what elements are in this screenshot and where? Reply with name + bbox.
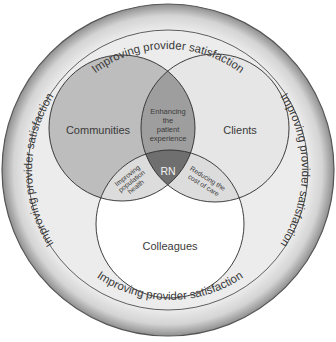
svg-text:patient: patient	[157, 125, 180, 134]
label-colleagues: Colleagues	[142, 240, 198, 252]
label-clients: Clients	[223, 124, 257, 136]
label-rn: RN	[160, 165, 175, 177]
svg-text:Enhancing: Enhancing	[150, 107, 185, 116]
svg-text:the: the	[163, 116, 173, 125]
svg-text:experience: experience	[150, 134, 187, 143]
venn-diagram: Improving provider satisfaction Improvin…	[0, 0, 336, 342]
label-communities: Communities	[66, 124, 131, 136]
